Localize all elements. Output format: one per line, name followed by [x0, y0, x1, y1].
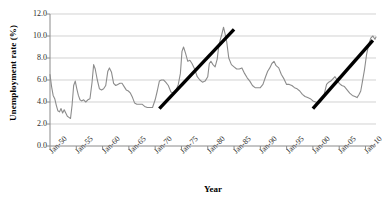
gridlines: [50, 14, 376, 124]
y-axis-tick-marks: [46, 14, 50, 146]
data-line: [50, 27, 376, 118]
x-axis-tick-marks: [50, 146, 365, 150]
annotation-group: [159, 29, 372, 108]
data-series-group: [50, 27, 376, 118]
trend-line-1: [159, 29, 234, 108]
